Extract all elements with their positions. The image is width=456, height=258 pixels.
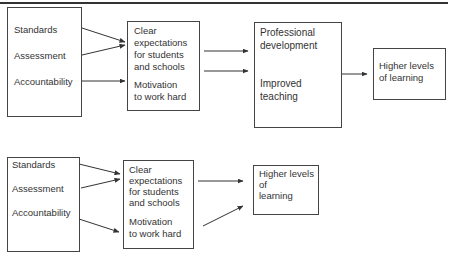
arrow-icon [79,219,119,232]
arrow-icon [81,179,120,188]
arrow-icon [82,45,125,55]
arrow-icon [79,164,120,174]
arrow-icon [82,28,125,42]
arrows-layer [0,0,456,258]
arrow-icon [203,206,243,226]
